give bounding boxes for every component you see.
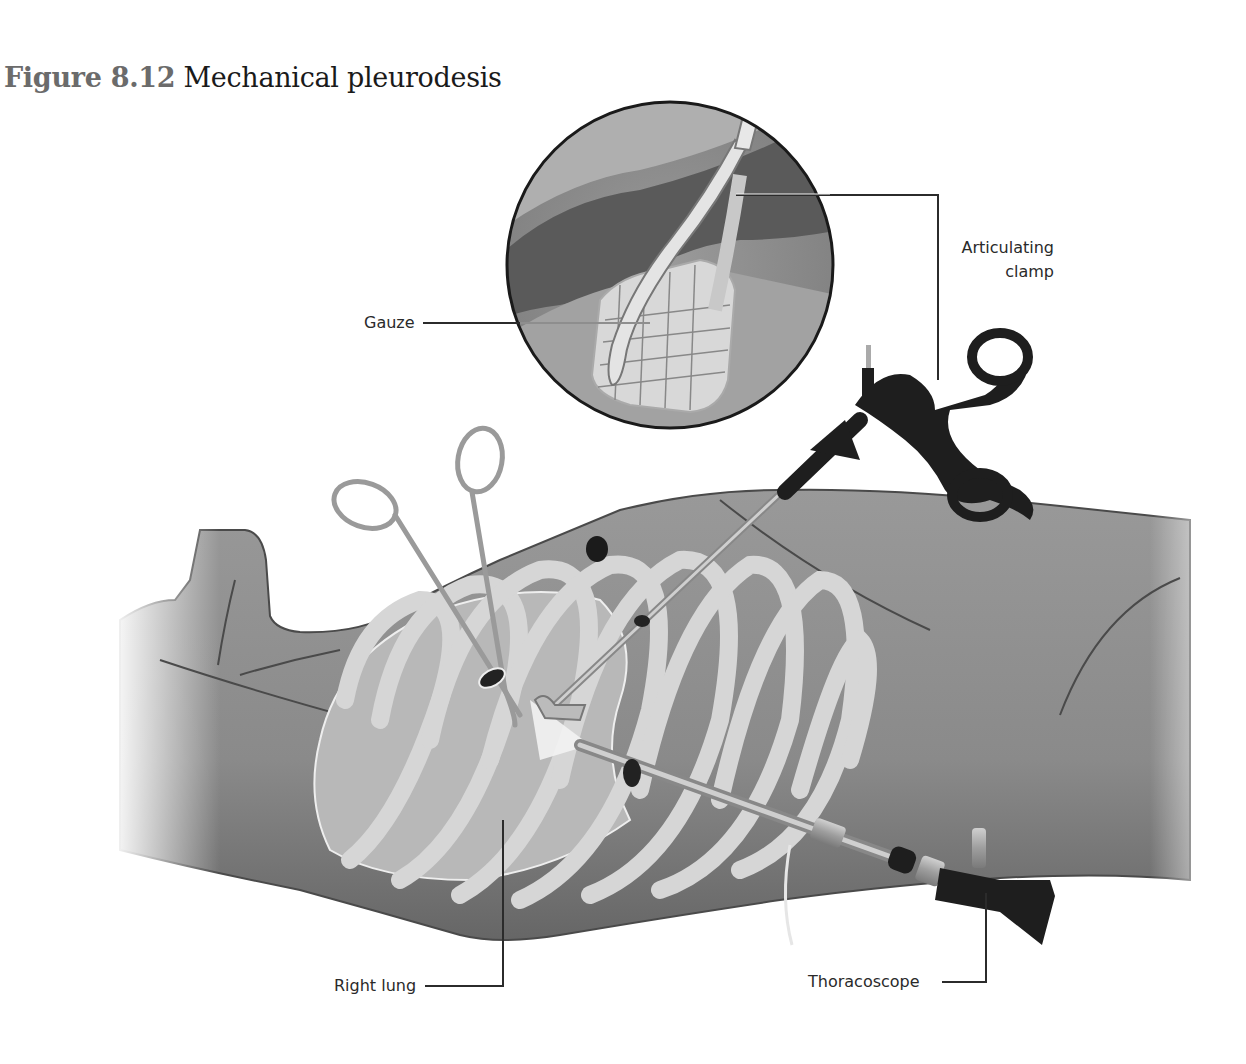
- forceps-ring: [453, 425, 507, 496]
- skin-marker: [586, 536, 608, 562]
- label-gauze: Gauze: [364, 311, 415, 335]
- clamp-pin-base: [862, 368, 874, 396]
- label-articulating-clamp: Articulating clamp: [940, 236, 1054, 284]
- scope-port: [623, 759, 641, 787]
- scope-light-post: [972, 828, 986, 868]
- clamp-pin: [866, 345, 871, 370]
- label-articulating-clamp-line2: clamp: [940, 260, 1054, 284]
- port-mark: [634, 615, 650, 627]
- label-right-lung: Right lung: [334, 974, 416, 998]
- scope-eyepiece: [935, 868, 1055, 945]
- label-articulating-clamp-line1: Articulating: [940, 236, 1054, 260]
- magnified-inset: [500, 60, 860, 440]
- clamp-finger-ring: [972, 333, 1028, 381]
- pleurodesis-illustration: [0, 0, 1246, 1064]
- forceps-ring: [327, 473, 402, 536]
- label-thoracoscope: Thoracoscope: [808, 970, 920, 994]
